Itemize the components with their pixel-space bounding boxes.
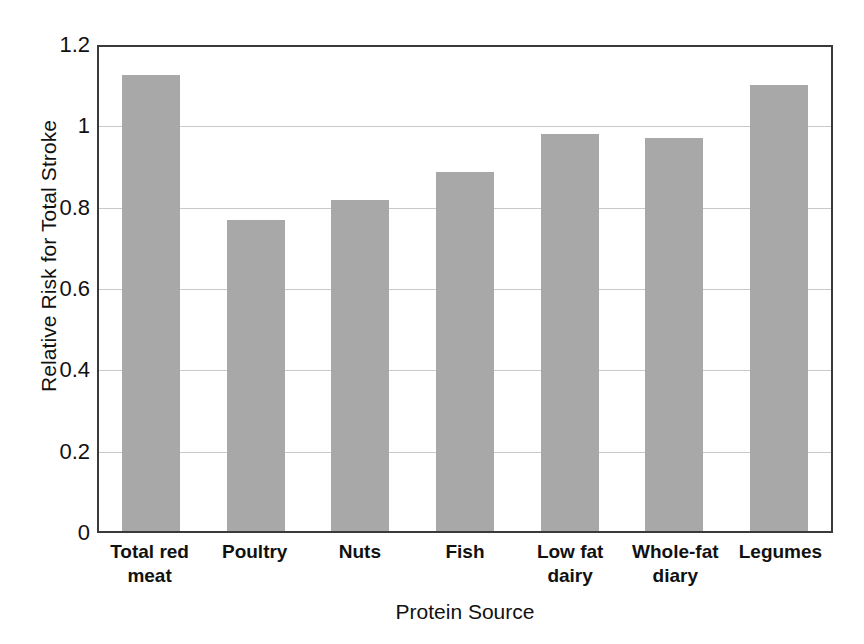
x-tick-label-line: dairy — [518, 564, 623, 588]
x-tick-label: Fish — [412, 540, 517, 588]
bars-container — [99, 47, 831, 531]
x-axis-tick-labels: Total redmeatPoultryNutsFishLow fatdairy… — [97, 540, 833, 588]
bar[interactable] — [122, 75, 180, 531]
bar-slot — [726, 47, 831, 531]
x-tick-label-line: Total red — [97, 540, 202, 564]
x-axis-title: Protein Source — [97, 600, 833, 624]
y-tick-label: 0.8 — [26, 197, 90, 219]
plot-area — [97, 45, 833, 533]
bar-slot — [204, 47, 309, 531]
bar[interactable] — [227, 220, 285, 531]
y-tick-label: 0.6 — [26, 278, 90, 300]
bar[interactable] — [645, 138, 703, 531]
x-tick-label-line: Low fat — [518, 540, 623, 564]
y-tick-label: 0.2 — [26, 441, 90, 463]
y-tick-label: 1 — [26, 115, 90, 137]
bar[interactable] — [750, 85, 808, 531]
x-tick-label: Legumes — [728, 540, 833, 588]
x-tick-label-line: Fish — [412, 540, 517, 564]
bar[interactable] — [436, 172, 494, 531]
bar-slot — [517, 47, 622, 531]
x-tick-label: Low fatdairy — [518, 540, 623, 588]
x-tick-label-line: Nuts — [307, 540, 412, 564]
bar-slot — [308, 47, 413, 531]
x-tick-label: Total redmeat — [97, 540, 202, 588]
y-tick-label: 0 — [26, 522, 90, 544]
y-tick-label: 1.2 — [26, 34, 90, 56]
x-tick-label: Poultry — [202, 540, 307, 588]
y-tick-label: 0.4 — [26, 359, 90, 381]
bar-chart-figure: Relative Risk for Total Stroke 00.20.40.… — [0, 0, 864, 644]
bar[interactable] — [541, 134, 599, 531]
bar-slot — [622, 47, 727, 531]
bar-slot — [413, 47, 518, 531]
x-tick-label: Nuts — [307, 540, 412, 588]
y-axis-tick-labels: 00.20.40.60.811.2 — [26, 0, 90, 644]
x-tick-label-line: Whole-fat — [623, 540, 728, 564]
x-tick-label-line: Legumes — [728, 540, 833, 564]
x-tick-label-line: diary — [623, 564, 728, 588]
x-tick-label-line: Poultry — [202, 540, 307, 564]
x-tick-label: Whole-fatdiary — [623, 540, 728, 588]
bar-slot — [99, 47, 204, 531]
bar[interactable] — [331, 200, 389, 531]
x-tick-label-line: meat — [97, 564, 202, 588]
